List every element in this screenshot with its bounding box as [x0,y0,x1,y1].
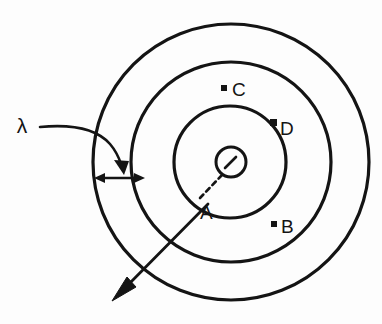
point-a: A [200,202,213,223]
point-b: B [271,216,294,237]
diagram-canvas: λ C D A B [0,0,382,324]
point-c: C [221,79,246,100]
center-tick-mark [225,157,236,168]
center-to-a-dashed-line [200,175,222,198]
point-d-dot [270,119,277,126]
concentric-shells-figure: λ C D A B [0,0,382,324]
point-b-label: B [281,216,294,237]
wavelength-leader-line [40,126,129,175]
point-a-label: A [200,202,213,223]
point-d-label: D [280,118,294,139]
wavelength-label: λ [17,114,28,137]
wavelength-gap-arrow [94,173,145,183]
point-c-dot [221,85,227,91]
point-b-dot [271,221,277,227]
point-c-label: C [232,79,246,100]
